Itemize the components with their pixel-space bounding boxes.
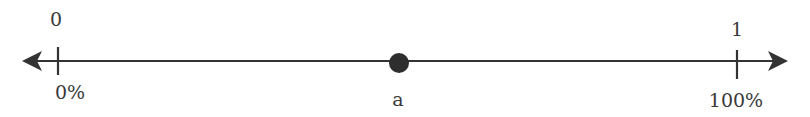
start-value-label: 0 — [50, 8, 62, 30]
end-value-label: 1 — [731, 18, 743, 40]
end-percent-label: 100% — [709, 89, 763, 111]
start-percent-label: 0% — [55, 81, 85, 103]
point-a-marker — [389, 53, 409, 73]
number-line-diagram: 0 0% a 1 100% — [0, 0, 810, 117]
point-a-label: a — [392, 88, 403, 110]
